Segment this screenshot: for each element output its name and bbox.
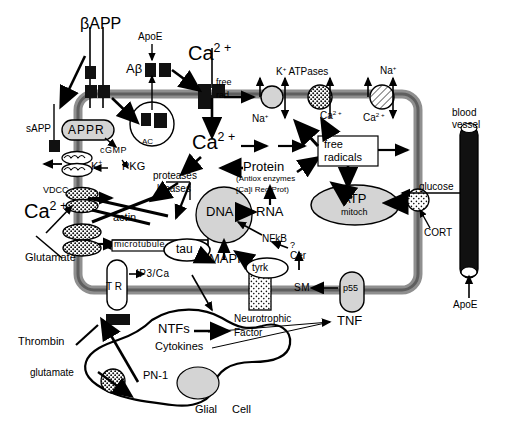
- label-factor: Factor: [234, 328, 262, 338]
- label-nfkb: NFkB: [262, 234, 287, 244]
- label-pkg: PKG: [122, 161, 145, 172]
- label-cer: Cer: [290, 251, 306, 261]
- label-ca-pump-mid: Ca2 +: [320, 110, 342, 121]
- label-tnf: TNF: [337, 314, 362, 327]
- label-pn1: PN-1: [143, 370, 168, 381]
- label-ca-extracellular-top: Ca2 +: [188, 42, 231, 63]
- label-free-radicals-line1: free: [324, 139, 343, 150]
- label-ip3ca: IP3/Ca: [136, 269, 170, 279]
- label-actin: actin: [113, 212, 136, 223]
- label-sapp: sAPP: [26, 124, 51, 134]
- label-vdcc: VDCC: [43, 186, 69, 195]
- label-k-atpases: K+ ATPases: [276, 66, 328, 77]
- na-k-pump: [260, 78, 285, 118]
- label-tr: T R: [106, 282, 122, 292]
- bapp-domain-box: [85, 66, 96, 79]
- label-k-plus: K+: [91, 160, 102, 172]
- label-ca-left: Ca2 +: [24, 200, 67, 221]
- diagram-canvas: βAPP ApoE Aβ Ca2 + free rad K+ ATPases N…: [0, 0, 507, 440]
- label-tau: tau: [176, 243, 193, 255]
- label-rad: rad: [216, 91, 229, 100]
- label-sm: SM: [294, 283, 310, 293]
- label-ca-pump-right: Ca2 +: [363, 112, 385, 123]
- label-cgmp: cGMP: [100, 146, 127, 155]
- blood-vessel: [460, 124, 478, 299]
- label-na-top-right: Na+: [380, 65, 396, 76]
- label-neurotrophic: Neurotrophic: [234, 314, 291, 324]
- protein-radicals-arrow: [297, 158, 318, 172]
- label-blood-vessel-line2: vessel: [452, 120, 480, 130]
- label-free: free: [216, 78, 232, 87]
- radicals-pump-arrow: [296, 122, 318, 146]
- label-apoe-top: ApoE: [138, 32, 162, 42]
- label-atp: ATP: [342, 192, 366, 205]
- label-rna: RNA: [256, 205, 283, 218]
- label-tyrk: tyrk: [252, 263, 268, 273]
- bapp-membrane-box-1: [85, 85, 97, 98]
- bapp-membrane-box-2: [98, 85, 110, 98]
- label-blood-vessel-line1: blood: [452, 108, 476, 118]
- label-abeta: Aβ: [126, 62, 142, 75]
- label-dna: DNA: [206, 205, 233, 218]
- label-protein-sub1: (Antiox enzymes: [236, 175, 295, 183]
- label-glutamate-neuron: Glutamate: [25, 252, 76, 263]
- label-mapk: MAPK: [209, 252, 246, 265]
- label-protein: Protein: [243, 160, 284, 173]
- label-bapp: βAPP: [80, 16, 121, 32]
- label-glucose: glucose: [419, 182, 453, 192]
- label-cell: Cell: [232, 404, 251, 415]
- vdcc-channel: [66, 188, 112, 213]
- label-microtubule: microtubule: [114, 240, 165, 249]
- label-cort: CORT: [424, 228, 452, 238]
- label-ac: AC: [142, 138, 153, 146]
- label-kinases: kinases: [157, 184, 191, 194]
- label-cytokines: Cytokines: [155, 341, 203, 352]
- label-thrombin: Thrombin: [18, 336, 64, 347]
- label-proteases: proteases: [153, 171, 197, 181]
- diagram-vector-layer: [0, 0, 507, 440]
- label-apoe-vessel: ApoE: [453, 300, 477, 310]
- label-p55: p55: [343, 284, 358, 293]
- label-ca-cytosol: Ca2 +: [192, 131, 235, 152]
- label-glial: Glial: [195, 404, 217, 415]
- sapp-box: [49, 140, 60, 152]
- label-mitoch: mitoch: [341, 208, 368, 217]
- glial-nucleus: [177, 367, 219, 399]
- label-question: ?: [290, 241, 295, 250]
- abeta-box-1: [145, 63, 156, 77]
- label-free-radicals-line2: radicals: [324, 152, 362, 163]
- label-glutamate-glial: glutamate: [30, 368, 74, 378]
- label-na-left-pump: Na+: [252, 113, 268, 124]
- label-protein-sub2: [Ca]i Reg Prot): [236, 186, 289, 194]
- label-ntfs: NTFs: [158, 322, 190, 335]
- abeta-group: [145, 44, 171, 110]
- abeta-box-2: [159, 63, 171, 77]
- thrombin-bound-box: [106, 314, 130, 325]
- label-appr: APPR: [68, 124, 105, 136]
